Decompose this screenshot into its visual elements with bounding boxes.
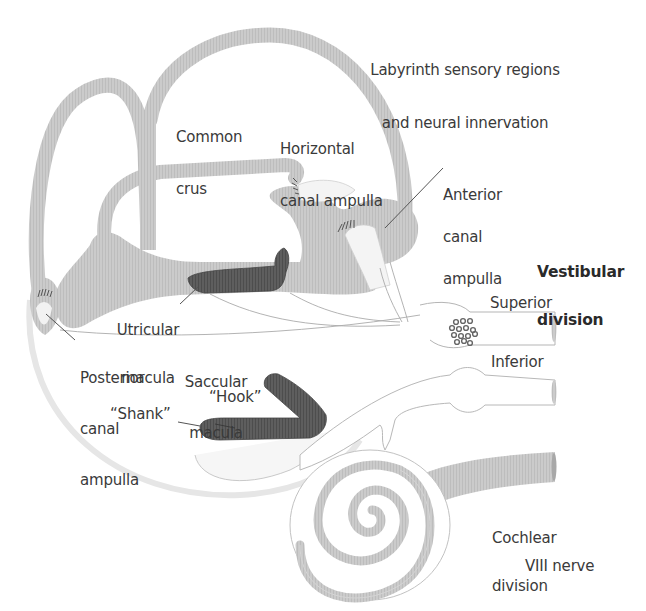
label-saccular-macula: Saccular macula xyxy=(178,340,254,476)
label-superior: Superior xyxy=(490,296,552,311)
label-hook: “Hook” xyxy=(209,390,261,405)
cochlea xyxy=(290,450,450,600)
inferior-nerve-cut xyxy=(552,380,557,404)
title-line-1: Labyrinth sensory regions xyxy=(355,63,575,78)
label-shank: “Shank” xyxy=(110,407,171,422)
label-anterior-canal-ampulla: Anterior canal ampulla xyxy=(443,160,502,314)
label-inferior: Inferior xyxy=(491,355,544,370)
diagram-title: Labyrinth sensory regions and neural inn… xyxy=(355,33,575,161)
label-viii-nerve: VIII nerve xyxy=(525,559,594,574)
label-horizontal-canal-ampulla: Horizontal canal ampulla xyxy=(280,112,383,239)
label-common-crus: Common crus xyxy=(176,100,242,227)
title-line-2: and neural innervation xyxy=(355,116,575,131)
inferior-vestibular-nerve xyxy=(300,368,555,471)
label-cochlear-division: Cochlear division xyxy=(492,498,557,611)
label-posterior-canal-ampulla: Posterior canal ampulla xyxy=(80,336,145,523)
cochlear-nerve-cut xyxy=(552,453,557,481)
labyrinth-diagram: Labyrinth sensory regions and neural inn… xyxy=(0,0,646,611)
